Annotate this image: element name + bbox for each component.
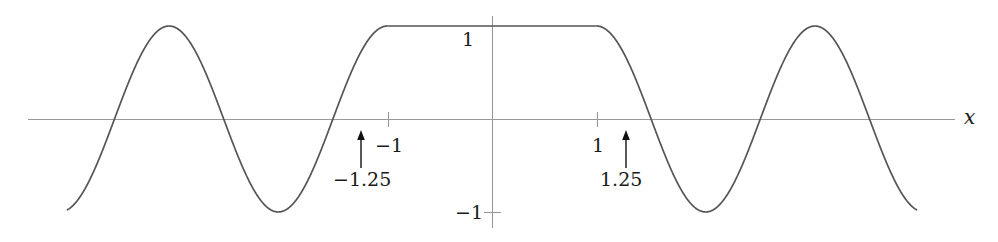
left-annotation-arrow [357,130,365,168]
annotation-label-pos-125: 1.25 [600,170,642,189]
y-tick-label-neg-1: −1 [455,203,483,222]
annotation-label-neg-125: −1.25 [333,170,391,189]
x-tick-label-neg-1: −1 [375,136,403,155]
x-tick-label-pos-1: 1 [592,136,604,155]
chart-canvas [0,0,998,242]
y-tick-label-1: 1 [462,30,474,49]
plot-figure: 1 −1 −1 1 −1.25 1.25 x [0,0,998,242]
x-axis-label: x [964,107,975,127]
right-annotation-arrow [622,130,630,168]
